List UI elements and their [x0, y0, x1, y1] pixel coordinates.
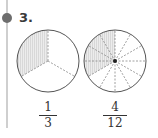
numerator: 1 [33, 101, 63, 114]
fraction-circles [0, 0, 158, 138]
fraction-four-twelfths: 4 12 [100, 101, 130, 130]
denominator: 12 [100, 117, 130, 130]
denominator: 3 [33, 117, 63, 130]
circle-twelfths [84, 30, 146, 92]
center-dot-icon [113, 59, 117, 63]
fraction-one-third: 1 3 [33, 101, 63, 130]
circle-thirds [17, 30, 79, 92]
numerator: 4 [100, 101, 130, 114]
